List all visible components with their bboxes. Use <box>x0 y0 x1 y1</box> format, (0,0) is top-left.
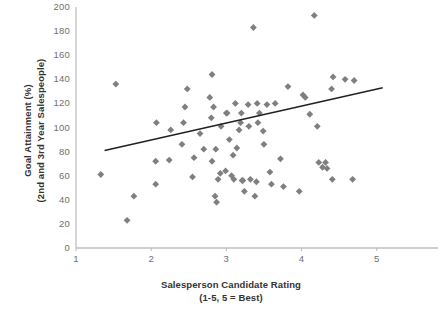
scatter-point <box>315 159 322 166</box>
scatter-point <box>280 183 287 190</box>
scatter-point <box>250 24 257 31</box>
y-axis-title-main: Goal Attainment (%) <box>22 11 35 251</box>
scatter-point <box>330 73 337 80</box>
scatter-point <box>97 171 104 178</box>
scatter-point <box>277 155 284 162</box>
scatter-point <box>200 146 207 153</box>
x-tick-label: 1 <box>66 253 86 264</box>
scatter-point <box>267 169 274 176</box>
scatter-point <box>306 111 313 118</box>
scatter-point <box>230 152 237 159</box>
x-axis-title: Salesperson Candidate Rating (1-5, 5 = B… <box>76 279 386 304</box>
trend-line <box>105 88 383 151</box>
scatter-point <box>329 176 336 183</box>
scatter-point <box>210 104 217 111</box>
scatter-point <box>208 114 215 121</box>
y-axis-title: Goal Attainment (%) (2nd and 3rd Year Sa… <box>22 11 47 251</box>
scatter-point <box>239 177 246 184</box>
x-axis-title-main: Salesperson Candidate Rating <box>76 279 386 292</box>
scatter-point <box>112 81 119 88</box>
scatter-point <box>296 188 303 195</box>
scatter-point <box>179 141 186 148</box>
x-axis-title-sub: (1-5, 5 = Best) <box>76 292 386 305</box>
scatter-point <box>152 181 159 188</box>
scatter-point <box>232 100 239 107</box>
scatter-point <box>314 123 321 130</box>
trend-line-segment <box>105 88 383 151</box>
scatter-point <box>268 181 275 188</box>
scatter-point <box>272 100 279 107</box>
scatter-point <box>236 127 243 134</box>
scatter-point <box>245 123 252 130</box>
scatter-point <box>285 83 292 90</box>
scatter-point <box>206 94 213 101</box>
scatter-point <box>261 141 268 148</box>
scatter-point <box>226 136 233 143</box>
scatter-point <box>328 86 335 93</box>
x-tick-label: 4 <box>291 253 311 264</box>
x-tick-label: 5 <box>367 253 387 264</box>
y-axis-title-sub: (2nd and 3rd Year Salespeople) <box>34 11 47 251</box>
scatter-point <box>191 154 198 161</box>
scatter-point <box>213 199 220 206</box>
scatter-point <box>254 100 261 107</box>
scatter-point <box>253 178 260 185</box>
data-points <box>97 12 357 224</box>
scatter-point <box>130 193 137 200</box>
scatter-chart: 020406080100120140160180200 12345 Goal A… <box>0 0 440 314</box>
scatter-point <box>166 157 173 164</box>
scatter-point <box>212 146 219 153</box>
scatter-point <box>238 110 245 117</box>
axes <box>76 7 438 251</box>
scatter-point <box>351 77 358 84</box>
scatter-point <box>233 145 240 152</box>
scatter-point <box>153 119 160 126</box>
scatter-point <box>197 130 204 137</box>
scatter-point <box>349 176 356 183</box>
scatter-point <box>124 217 131 224</box>
scatter-point <box>245 101 252 108</box>
scatter-point <box>180 119 187 126</box>
scatter-point <box>209 71 216 78</box>
x-tick-label: 3 <box>216 253 236 264</box>
scatter-point <box>342 76 349 83</box>
scatter-point <box>167 127 174 134</box>
scatter-point <box>215 176 222 183</box>
plot-area <box>0 0 440 314</box>
scatter-point <box>264 101 271 108</box>
scatter-point <box>241 188 248 195</box>
scatter-point <box>209 158 216 165</box>
x-tick-label: 2 <box>141 253 161 264</box>
scatter-point <box>247 176 254 183</box>
scatter-point <box>184 86 191 93</box>
scatter-point <box>254 119 261 126</box>
scatter-point <box>224 110 231 117</box>
scatter-point <box>189 174 196 181</box>
scatter-point <box>212 193 219 200</box>
scatter-point <box>182 104 189 111</box>
scatter-point <box>251 193 258 200</box>
scatter-point <box>311 12 318 19</box>
scatter-point <box>152 158 159 165</box>
scatter-point <box>260 128 267 135</box>
